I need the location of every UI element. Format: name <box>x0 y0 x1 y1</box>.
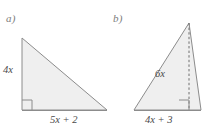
part-label-b: b) <box>113 12 123 24</box>
part-label-a: a) <box>6 12 16 24</box>
triangle-a-height-label: 4x <box>3 64 13 75</box>
figure-canvas <box>0 0 213 137</box>
triangle-b-base-label: 4x + 3 <box>145 114 173 125</box>
triangle-a-base-label: 5x + 2 <box>50 114 78 125</box>
triangle-b-height-label: 6x <box>155 68 165 79</box>
triangle-b-shape <box>134 23 201 110</box>
geometry-figure: a) b) 4x 5x + 2 6x 4x + 3 <box>0 0 213 137</box>
triangle-a-shape <box>22 38 107 110</box>
